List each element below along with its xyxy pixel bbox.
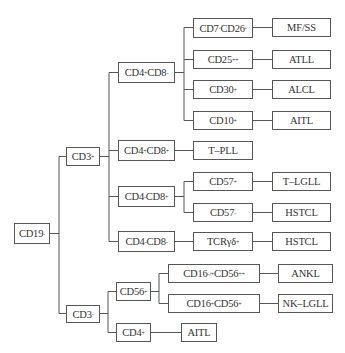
node-label: NK–LGLL	[283, 298, 329, 309]
classification-tree: CD19- CD3+ CD3- CD4+CD8- CD4+CD8+ CD4-CD…	[0, 0, 345, 353]
node-label: CD25	[208, 54, 232, 65]
node-label-a: CD16	[187, 298, 211, 309]
node-dx-nk-lgll: NK–LGLL	[278, 294, 333, 313]
node-t-pll: T–PLL	[193, 141, 253, 160]
node-label: CD3	[72, 309, 91, 320]
node-label-a: CD4	[125, 67, 144, 78]
node-label: CD56	[120, 286, 144, 297]
node-cd30-pos: CD30+	[193, 80, 253, 99]
node-label: AITL	[187, 327, 210, 338]
node-label: CD30	[209, 84, 233, 95]
node-label-a: CD7	[199, 23, 218, 34]
node-label-a: CD16	[183, 268, 207, 279]
node-cd16pos-cd56pos: CD16+CD56+	[168, 294, 260, 313]
node-dx-aitl-2: AITL	[181, 323, 217, 342]
node-label-b: CD8	[147, 145, 166, 156]
node-label: T–PLL	[208, 145, 237, 156]
node-label: ATLL	[289, 54, 314, 65]
node-label-b: CD8	[146, 191, 165, 202]
node-cd10-pos: CD10+	[193, 111, 253, 130]
node-cd3-pos: CD3+	[66, 147, 100, 166]
node-cd4pos-cd8neg: CD4+CD8-	[118, 62, 175, 83]
node-label: CD4	[122, 327, 141, 338]
node-label-b: CD8	[147, 67, 166, 78]
node-cd25-pospos: CD25++	[193, 50, 253, 69]
node-cd4-pos: CD4+	[116, 323, 151, 342]
node-label: CD19	[19, 228, 43, 239]
node-label-b: CD8	[147, 236, 166, 247]
node-label: T–LGLL	[283, 176, 320, 187]
node-dx-atll: ATLL	[272, 50, 331, 69]
node-cd57-pos: CD57+	[193, 172, 253, 191]
node-label: ALCL	[288, 84, 315, 95]
node-dx-ankl: ANKL	[278, 264, 333, 283]
node-dx-hstcl: HSTCL	[272, 203, 331, 222]
node-label: HSTCL	[285, 207, 317, 218]
node-label: HSTCL	[285, 236, 317, 247]
node-label-a: CD4	[124, 145, 143, 156]
node-label: MF/SS	[287, 22, 316, 33]
node-label: CD10	[209, 115, 233, 126]
node-cd7neg-cd26neg: CD7-CD26-	[193, 18, 253, 38]
node-dx-alcl: ALCL	[272, 80, 331, 99]
node-label-a: CD4	[125, 236, 144, 247]
node-dx-hstcl-2: HSTCL	[272, 232, 331, 251]
node-cd16var-cd56pospos: CD16-/+CD56++	[168, 264, 260, 283]
node-dx-aitl: AITL	[272, 111, 331, 130]
node-label-b: CD26	[220, 23, 244, 34]
node-label-a: CD4	[125, 191, 144, 202]
node-label: AITL	[290, 115, 313, 126]
node-dx-t-lgll: T–LGLL	[272, 172, 331, 191]
node-label: CD3	[72, 151, 91, 162]
node-cd4neg-cd8neg: CD4-CD8-	[118, 231, 175, 252]
node-tcr-gamma-delta-pos: TCRγδ+	[193, 232, 253, 251]
node-label: ANKL	[291, 268, 319, 279]
node-cd56-pos: CD56+	[116, 282, 151, 301]
node-label-b: CD56	[214, 268, 238, 279]
node-label-b: CD56	[214, 298, 238, 309]
node-label: CD57	[210, 207, 234, 218]
node-dx-mf-ss: MF/SS	[272, 18, 331, 37]
node-cd3-neg: CD3-	[66, 305, 100, 323]
node-cd57-neg: CD57-	[193, 203, 253, 222]
node-label: TCRγδ	[207, 236, 236, 247]
node-cd19-neg: CD19-	[14, 223, 50, 244]
node-cd4pos-cd8pos: CD4+CD8+	[118, 140, 175, 161]
node-label: CD57	[209, 176, 233, 187]
node-cd4neg-cd8pos: CD4-CD8+	[118, 186, 175, 207]
